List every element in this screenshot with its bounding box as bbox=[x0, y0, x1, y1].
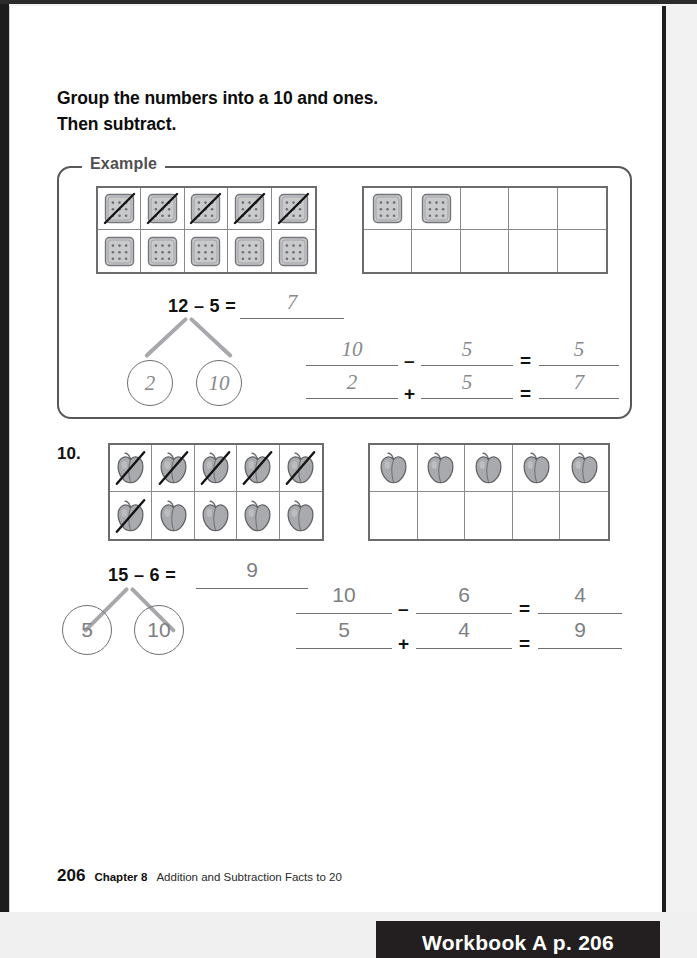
ten-frame-cell bbox=[110, 492, 152, 539]
example-label: Example bbox=[82, 155, 165, 173]
ten-frame-cell bbox=[110, 445, 152, 492]
problem-equation-prompt: 15 – 6 = bbox=[108, 565, 176, 586]
footer-chapter-title: Addition and Subtraction Facts to 20 bbox=[156, 871, 341, 883]
problem-work2-result: 9 bbox=[538, 618, 622, 642]
example-work2-equals: = bbox=[520, 383, 531, 405]
problem-number: 10. bbox=[57, 444, 81, 464]
example-work1-operator: – bbox=[404, 350, 415, 372]
example-work2-blank-b bbox=[421, 398, 513, 399]
cracker-icon bbox=[420, 192, 453, 225]
ten-frame-cell bbox=[418, 492, 466, 539]
example-work1-equals: = bbox=[520, 350, 531, 372]
problem-work1-operator: – bbox=[398, 598, 409, 620]
ten-frame-cell bbox=[228, 230, 271, 272]
example-work2-blank-c bbox=[539, 398, 619, 399]
apple-icon bbox=[521, 450, 552, 486]
problem-work2-blank-a bbox=[296, 648, 392, 649]
ten-frame-cell bbox=[513, 492, 561, 539]
cracker-icon bbox=[233, 235, 266, 268]
apple-icon bbox=[158, 498, 189, 534]
ten-frame-cell bbox=[513, 445, 561, 492]
problem-work1-minuend: 10 bbox=[296, 583, 392, 607]
ten-frame-cell bbox=[237, 492, 279, 539]
ten-frame-cell bbox=[195, 492, 237, 539]
ten-frame-cell bbox=[465, 445, 513, 492]
ten-frame-cell bbox=[152, 445, 194, 492]
ten-frame-cell bbox=[98, 230, 141, 272]
apple-icon bbox=[242, 450, 273, 486]
cracker-icon bbox=[146, 235, 179, 268]
cracker-icon bbox=[146, 192, 179, 225]
example-work1-result: 5 bbox=[539, 337, 619, 362]
apple-icon bbox=[200, 498, 231, 534]
cracker-icon bbox=[189, 235, 222, 268]
problem-right-ten-frame bbox=[368, 443, 610, 541]
instructions-line-1: Group the numbers into a 10 and ones. bbox=[57, 85, 577, 111]
ten-frame-cell bbox=[509, 188, 557, 230]
ten-frame-cell bbox=[418, 445, 466, 492]
ten-frame-cell bbox=[412, 230, 460, 272]
example-equation-prompt: 12 – 5 = bbox=[168, 296, 236, 317]
problem-bond-part-right-value: 10 bbox=[147, 618, 170, 642]
problem-work1-blank-c bbox=[538, 613, 622, 614]
workbook-banner: Workbook A p. 206 bbox=[376, 921, 660, 958]
problem-work2-addend1: 5 bbox=[296, 618, 392, 642]
example-equation-answer: 7 bbox=[240, 290, 344, 315]
ten-frame-cell bbox=[364, 188, 412, 230]
ten-frame-cell bbox=[461, 188, 509, 230]
ten-frame-cell bbox=[141, 230, 184, 272]
apple-icon bbox=[242, 498, 273, 534]
ten-frame-cell bbox=[185, 230, 228, 272]
problem-bond-part-left-value: 5 bbox=[81, 618, 93, 642]
apple-icon bbox=[200, 450, 231, 486]
page-footer: 206 Chapter 8 Addition and Subtraction F… bbox=[57, 866, 342, 886]
ten-frame-cell bbox=[558, 188, 606, 230]
example-bond-part-left: 2 bbox=[127, 360, 173, 406]
problem-bond-part-right: 10 bbox=[134, 605, 184, 655]
footer-page-number: 206 bbox=[57, 866, 85, 886]
example-work2-blank-a bbox=[306, 398, 398, 399]
example-work2-addend1: 2 bbox=[306, 370, 398, 395]
ten-frame-cell bbox=[560, 492, 608, 539]
example-work1-subtrahend: 5 bbox=[421, 337, 513, 362]
ten-frame-cell bbox=[152, 492, 194, 539]
ten-frame-cell bbox=[141, 188, 184, 230]
ten-frame-cell bbox=[98, 188, 141, 230]
ten-frame-cell bbox=[280, 492, 322, 539]
apple-icon bbox=[378, 450, 409, 486]
cracker-icon bbox=[277, 192, 310, 225]
ten-frame-cell bbox=[412, 188, 460, 230]
example-work2-result: 7 bbox=[539, 370, 619, 395]
problem-work1-result: 4 bbox=[538, 583, 622, 607]
scan-top-rule bbox=[0, 0, 697, 4]
example-work1-blank-a bbox=[306, 365, 398, 366]
ten-frame-cell bbox=[185, 188, 228, 230]
apple-icon bbox=[285, 450, 316, 486]
instructions-line-2: Then subtract. bbox=[57, 111, 577, 137]
problem-work2-blank-c bbox=[538, 648, 622, 649]
instructions-heading: Group the numbers into a 10 and ones. Th… bbox=[57, 85, 577, 137]
ten-frame-cell bbox=[558, 230, 606, 272]
problem-work2-blank-b bbox=[416, 648, 512, 649]
ten-frame-cell bbox=[195, 445, 237, 492]
example-right-ten-frame bbox=[362, 186, 608, 274]
example-work2-addend2: 5 bbox=[421, 370, 513, 395]
apple-icon bbox=[285, 498, 316, 534]
ten-frame-cell bbox=[370, 445, 418, 492]
ten-frame-cell bbox=[237, 445, 279, 492]
apple-icon bbox=[425, 450, 456, 486]
problem-bond-part-left: 5 bbox=[62, 605, 112, 655]
problem-work1-blank-b bbox=[416, 613, 512, 614]
cracker-icon bbox=[103, 235, 136, 268]
footer-chapter: Chapter 8 bbox=[94, 871, 147, 883]
ten-frame-cell bbox=[364, 230, 412, 272]
cracker-icon bbox=[189, 192, 222, 225]
ten-frame-cell bbox=[228, 188, 271, 230]
cracker-icon bbox=[277, 235, 310, 268]
ten-frame-cell bbox=[509, 230, 557, 272]
apple-icon bbox=[115, 498, 146, 534]
apple-icon bbox=[115, 450, 146, 486]
cracker-icon bbox=[233, 192, 266, 225]
example-work2-operator: + bbox=[404, 383, 415, 405]
ten-frame-cell bbox=[280, 445, 322, 492]
